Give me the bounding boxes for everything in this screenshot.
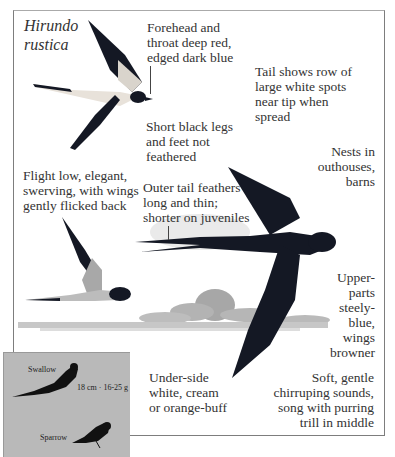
annotation-line: gently flicked back: [23, 198, 139, 213]
annotation-line: white, cream: [149, 385, 227, 400]
annotation-underside: Under-side white, cream or orange-buff: [149, 370, 227, 415]
annotation-line: throat deep red,: [147, 35, 233, 50]
swallow-left-illustration: [25, 217, 131, 301]
annotation-line: wings: [330, 330, 375, 345]
annotation-forehead: Forehead and throat deep red, edged dark…: [147, 20, 233, 65]
annotation-line: or orange-buff: [149, 400, 227, 415]
annotation-line: large white spots: [255, 79, 352, 94]
annotation-line: outhouses,: [318, 159, 375, 174]
annotation-line: Nests in: [318, 144, 375, 159]
annotation-line: Short black legs: [146, 119, 233, 134]
annotation-line: Forehead and: [147, 20, 233, 35]
scientific-name-species: rustica: [24, 35, 78, 54]
annotation-legs: Short black legs and feet not feathered: [146, 119, 233, 164]
annotation-line: parts: [330, 285, 375, 300]
sparrow-label: Sparrow: [40, 433, 67, 442]
silhouettes: [4, 353, 131, 457]
annotation-line: trill in middle: [274, 415, 375, 430]
annotation-line: barns: [318, 174, 375, 189]
annotation-line: spread: [255, 109, 352, 124]
annotation-flight: Flight low, elegant, swerving, with wing…: [23, 168, 139, 213]
annotation-upperparts: Upper- parts steely- blue, wings browner: [330, 270, 375, 360]
annotation-line: browner: [330, 345, 375, 360]
annotation-tail-spots: Tail shows row of large white spots near…: [255, 64, 352, 124]
sparrow-silhouette-icon: [72, 422, 111, 448]
annotation-line: Under-side: [149, 370, 227, 385]
annotation-line: swerving, with wings: [23, 183, 139, 198]
annotation-line: steely-: [330, 300, 375, 315]
annotation-line: blue,: [330, 315, 375, 330]
annotation-line: Tail shows row of: [255, 64, 352, 79]
annotation-line: near tip when: [255, 94, 352, 109]
annotation-line: chirruping sounds,: [274, 385, 375, 400]
annotation-line: Soft, gentle: [274, 370, 375, 385]
annotation-line: song with purring: [274, 400, 375, 415]
annotation-line: long and thin;: [143, 195, 249, 210]
swallow-label: Swallow: [28, 365, 56, 374]
annotation-outer-tail: Outer tail feathers long and thin; short…: [143, 180, 249, 225]
species-scientific-name: Hirundo rustica: [24, 16, 78, 54]
annotation-nests: Nests in outhouses, barns: [318, 144, 375, 189]
size-comparison-box: Swallow 18 cm · 16-25 g Sparrow: [3, 352, 130, 457]
pointer-line-outer-tail: [168, 226, 169, 240]
pointer-line-forehead: [150, 66, 151, 94]
annotation-line: shorter on juveniles: [143, 210, 249, 225]
annotation-line: Outer tail feathers: [143, 180, 249, 195]
annotation-line: edged dark blue: [147, 50, 233, 65]
annotation-voice: Soft, gentle chirruping sounds, song wit…: [274, 370, 375, 430]
annotation-line: Upper-: [330, 270, 375, 285]
annotation-line: Flight low, elegant,: [23, 168, 139, 183]
annotation-line: and feet not: [146, 134, 233, 149]
scientific-name-genus: Hirundo: [24, 16, 78, 35]
swallow-size-label: 18 cm · 16-25 g: [77, 383, 128, 392]
annotation-line: feathered: [146, 149, 233, 164]
